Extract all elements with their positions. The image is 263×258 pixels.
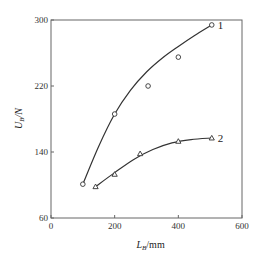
y-axis-label: UB/N xyxy=(13,107,26,129)
chart-canvas: 020040060060140220300 12 LB/mmUB/N xyxy=(0,0,263,258)
y-tick-label: 300 xyxy=(35,15,49,25)
axis-ticks: 020040060060140220300 xyxy=(35,15,250,231)
circle-marker xyxy=(176,55,181,60)
circle-marker xyxy=(146,84,151,89)
x-tick-label: 600 xyxy=(235,221,249,231)
circle-marker xyxy=(209,23,214,28)
plot-frame xyxy=(51,20,242,218)
series-2-label: 2 xyxy=(218,132,224,144)
x-tick-label: 0 xyxy=(49,221,54,231)
series-1-curve xyxy=(83,25,212,184)
x-axis-label: LB/mm xyxy=(136,239,165,252)
y-tick-label: 140 xyxy=(35,147,49,157)
circle-marker xyxy=(81,182,86,187)
axis-labels: LB/mmUB/N xyxy=(13,107,165,252)
x-tick-label: 200 xyxy=(108,221,122,231)
plot-border xyxy=(51,20,242,218)
triangle-marker xyxy=(138,151,143,156)
data-series: 12 xyxy=(81,19,224,189)
y-tick-label: 220 xyxy=(35,81,49,91)
series-2-curve xyxy=(96,138,212,187)
x-tick-label: 400 xyxy=(172,221,186,231)
circle-marker xyxy=(112,112,117,117)
series-1-label: 1 xyxy=(218,19,224,31)
y-tick-label: 60 xyxy=(39,213,49,223)
